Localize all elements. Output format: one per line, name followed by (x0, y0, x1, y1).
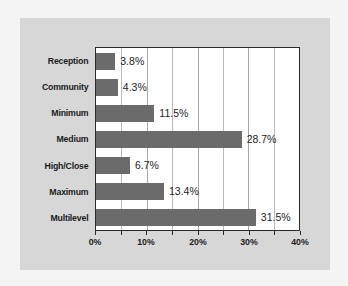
bar-value-label: 4.3% (123, 81, 147, 93)
x-axis-tick (146, 231, 147, 235)
x-axis-tick (300, 231, 301, 235)
plot-area: 3.8%4.3%11.5%28.7%6.7%13.4%31.5% (95, 47, 300, 231)
bar-value-label: 11.5% (159, 107, 188, 119)
category-label: Reception (26, 47, 93, 73)
chart-panel: ReceptionCommunityMinimumMediumHigh/Clos… (20, 18, 330, 270)
x-axis-tick (121, 231, 122, 235)
x-axis-tick (172, 231, 173, 235)
x-axis-tick-label: 20% (189, 236, 206, 247)
bar (96, 105, 154, 122)
x-axis-tick-label: 30% (240, 236, 257, 247)
bar-row: 13.4% (96, 178, 299, 204)
category-label: High/Close (26, 152, 93, 178)
bar-row: 4.3% (96, 74, 299, 100)
category-label: Minimum (26, 100, 93, 126)
x-axis-tick (95, 231, 96, 235)
x-axis-tick-label: 10% (138, 236, 155, 247)
x-axis-tick-label: 0% (89, 236, 102, 247)
category-label: Community (26, 73, 93, 99)
bar-chart-figure: ReceptionCommunityMinimumMediumHigh/Clos… (20, 18, 330, 270)
category-axis: ReceptionCommunityMinimumMediumHigh/Clos… (20, 47, 93, 231)
bar (96, 157, 130, 174)
category-label: Medium (26, 126, 93, 152)
bar-row: 6.7% (96, 152, 299, 178)
x-axis-tick-label: 40% (291, 236, 308, 247)
x-axis-tick (274, 231, 275, 235)
bar (96, 209, 256, 226)
x-axis: 0%10%20%30%40% (95, 231, 300, 257)
category-label: Maximum (26, 178, 93, 204)
bar-row: 31.5% (96, 204, 299, 230)
bar (96, 131, 242, 148)
bar (96, 183, 164, 200)
bar-row: 3.8% (96, 48, 299, 74)
bars-layer: 3.8%4.3%11.5%28.7%6.7%13.4%31.5% (96, 48, 299, 230)
x-axis-tick (249, 231, 250, 235)
bar (96, 53, 115, 70)
bar (96, 79, 118, 96)
bar-value-label: 28.7% (247, 133, 277, 145)
bar-value-label: 13.4% (169, 185, 199, 197)
x-axis-tick (198, 231, 199, 235)
bar-value-label: 3.8% (120, 55, 144, 67)
bar-row: 28.7% (96, 126, 299, 152)
bar-value-label: 31.5% (261, 211, 291, 223)
category-label: Multilevel (26, 205, 93, 231)
x-axis-tick (223, 231, 224, 235)
bar-row: 11.5% (96, 100, 299, 126)
bar-value-label: 6.7% (135, 159, 159, 171)
